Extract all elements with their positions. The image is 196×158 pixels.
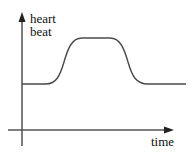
heart-beat-diagram: heart beat time <box>0 0 196 158</box>
x-axis-arrow-icon <box>164 127 174 134</box>
y-axis-arrow-icon <box>19 12 26 22</box>
y-axis-label-line2: beat <box>30 25 56 38</box>
heart-beat-curve <box>22 38 186 84</box>
x-axis-label: time <box>151 135 174 148</box>
y-axis-label: heart beat <box>30 12 56 38</box>
